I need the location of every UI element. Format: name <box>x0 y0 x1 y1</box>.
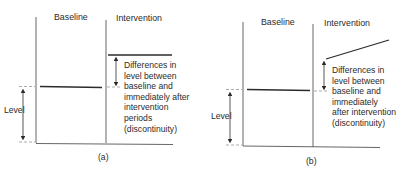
panel-a-level-label: Level <box>4 105 25 116</box>
panel-a-intervention-label: Intervention <box>116 13 162 24</box>
annotation-line: level between <box>124 71 189 82</box>
panel-a-baseline-label: Baseline <box>54 12 88 23</box>
panel-b-caption: (b) <box>306 156 317 167</box>
panel-b-x-axis <box>243 146 380 148</box>
annotation-line: Differences in <box>124 60 189 71</box>
panel-a-baseline-level-line <box>40 87 102 88</box>
annotation-line: intervention <box>124 102 189 113</box>
annotation-line: immediately <box>332 97 396 108</box>
panel-b-baseline-label: Baseline <box>261 17 295 28</box>
panel-a-annotation: Differences in level between baseline an… <box>124 60 189 134</box>
panel-b-intervention-trend-line <box>326 40 389 59</box>
panel-a-x-axis <box>36 144 173 145</box>
annotation-line: (discontinuity) <box>332 118 396 129</box>
annotation-line: immediately after <box>124 92 189 103</box>
annotation-line: (discontinuity) <box>124 124 189 135</box>
panel-a-caption: (a) <box>98 152 109 163</box>
panel-b-annotation: Differences in level between baseline an… <box>332 65 396 129</box>
annotation-line: baseline and <box>124 81 189 92</box>
annotation-line: after intervention <box>332 107 396 118</box>
annotation-line: level between <box>332 76 396 87</box>
annotation-line: periods <box>124 113 189 124</box>
panel-b-level-label: Level <box>211 111 232 122</box>
annotation-line: Differences in <box>332 65 396 76</box>
panel-b-baseline-level-line <box>247 90 310 91</box>
annotation-line: baseline and <box>332 86 396 97</box>
panel-b-intervention-label: Intervention <box>324 18 370 29</box>
